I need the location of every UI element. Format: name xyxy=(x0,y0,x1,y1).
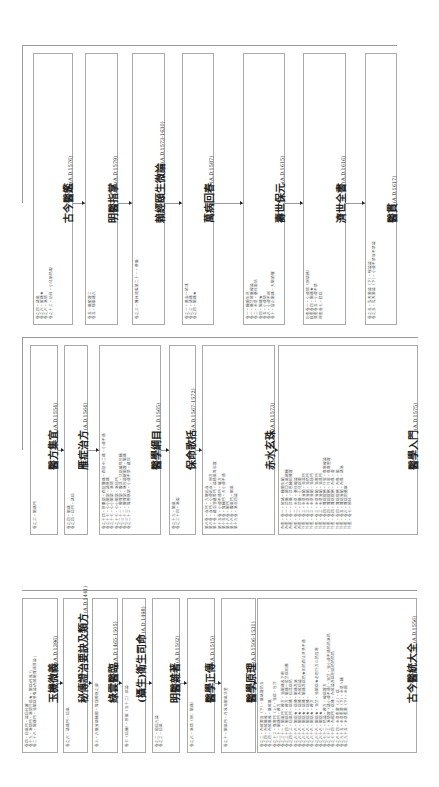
arrowhead-icon xyxy=(61,448,64,452)
book-entry: 卷之二十三・腎膀胱部・小便不禁・遺尿 xyxy=(127,457,131,529)
book-date: (A.D.1573) xyxy=(269,402,275,429)
book-title: 明醫雜著(A.D.1502) xyxy=(167,636,182,703)
book-entry: 卷之三・疝氣 xyxy=(159,723,163,747)
book-entry: 卷二・本草・藥性歌括 xyxy=(254,279,258,319)
book-title: 醫學原理(A.D.1506-1531) xyxy=(243,622,258,704)
book-title-text: 醫貫 xyxy=(387,203,398,223)
book-entry: 卷之四・腸痛★ xyxy=(193,291,197,319)
book-entry: 卷之十七・心小腸部・淋閉 xyxy=(110,481,114,529)
book-entry: 卷之六・諸痛門・疝氣 xyxy=(66,707,70,747)
arrowhead-icon xyxy=(218,681,221,685)
book-date: (A.D.1565) xyxy=(155,402,161,429)
arrowhead-icon xyxy=(184,681,187,685)
arrowhead-icon xyxy=(199,448,202,452)
book-title: 綠雲醫臨(A.D.1465-1505) xyxy=(105,622,120,704)
book-title-text: 古今醫統大全 xyxy=(407,643,418,703)
book-entry: 內集・卷一・診脈・診色臟相機證 xyxy=(289,469,293,529)
book-entry: 卷之五・先天要論（下）・小便不禁並不禁論 xyxy=(372,241,376,319)
book-entry: 卷二十八・陽痛門・治腸病參有論(內經腸胃補質論) xyxy=(33,656,37,747)
book-date: (A.D.1465-1505) xyxy=(112,622,118,664)
book-title: 醫貫(A.D.1617) xyxy=(384,175,399,222)
arrowhead-icon xyxy=(82,201,85,205)
arrowhead-icon xyxy=(254,681,257,685)
book-title-text: (攝生)衛生司命 xyxy=(136,634,147,703)
book-title: 古今醫統大全(A.D.1556) xyxy=(404,616,419,703)
book-date: (A.D.1616) xyxy=(340,155,346,182)
book-entry: 卷之十・腸氣門・丹溪治腸氣活套 xyxy=(224,687,228,747)
book-title-text: 醫學入門 xyxy=(408,430,419,470)
arrowhead-icon xyxy=(179,201,182,205)
arrowhead-icon xyxy=(166,448,169,452)
book-date: (A.D.1506-1531) xyxy=(250,622,256,664)
book-date: (A.D.1617) xyxy=(391,175,397,202)
book-title: 萬病回春(A.D.1587) xyxy=(201,155,216,222)
book-entry: 卷之四十三・疝氣門・病機・疝滿病熱 xyxy=(289,679,293,747)
book-entry: 卷之九十五・本草集要（下）・本國 xyxy=(344,685,348,747)
middle-row-left-line xyxy=(22,337,23,450)
book-entry: 卷之三・腸痛門 xyxy=(33,501,37,529)
book-title: 壽世保元(A.D.1615) xyxy=(272,155,287,222)
book-entry: 外集・卷七・婦科 xyxy=(348,497,352,529)
book-entry: 卷五・喘脹痛六 xyxy=(92,291,96,319)
book-entry: 巽集卷五・小便不禁 xyxy=(314,283,318,319)
book-title: 雁症治方(A.D.1564) xyxy=(75,402,90,469)
arrowhead-icon xyxy=(60,681,63,685)
book-date: (A.D.1573-1630) xyxy=(159,121,165,163)
book-date: (A.D.1396) xyxy=(52,636,58,663)
book-entry: 卷上・六脈分屬臟腑・腎與膀胱之屬 xyxy=(95,683,99,747)
book-date: (A.D.1502) xyxy=(174,636,180,663)
book-title: 醫學正傳(A.D.1515) xyxy=(202,636,217,703)
arrowhead-icon xyxy=(362,201,365,205)
book-date: (A.D.1515) xyxy=(209,636,215,663)
book-date: (A.D.1554) xyxy=(52,402,58,429)
book-title: (攝生)衛生司命(A.D.1498) xyxy=(133,607,148,704)
book-entry: 卷之六・淋閉（附：腸痛） xyxy=(190,699,194,747)
book-title: 玉機微義(A.D.1396) xyxy=(45,636,60,703)
book-title-text: 秘傳證治要訣及類方 xyxy=(78,613,89,703)
book-entry: 卷七（疝偏）・肝脹（五十二）病論 xyxy=(125,685,129,747)
book-date: (A.D.1564) xyxy=(82,402,88,429)
book-title-text: 賴經頤生微論 xyxy=(155,163,166,223)
top-row-left-line xyxy=(22,45,23,203)
middle-row-connector-line xyxy=(22,337,418,338)
book-title: 濟世全書(A.D.1616) xyxy=(333,155,348,222)
arrowhead-icon xyxy=(240,201,243,205)
book-entry: 卷之六十八・腸病★・療方 xyxy=(310,699,314,747)
arrowhead-icon xyxy=(149,681,152,685)
arrowhead-icon xyxy=(119,681,122,685)
top-row-connector-line xyxy=(22,45,397,46)
arrowhead-icon xyxy=(96,448,99,452)
flow-arrow xyxy=(214,203,243,204)
book-title: 明醫指掌(A.D.1579) xyxy=(105,155,120,222)
book-title: 秘傳證治要訣及類方(A.D.1441) xyxy=(75,586,90,703)
book-title: 醫學入門(A.D.1575) xyxy=(405,402,420,469)
arrowhead-icon xyxy=(89,681,92,685)
book-date: (A.D.1576) xyxy=(67,155,73,182)
book-entry: 坤集卷七・殿症 xyxy=(319,291,323,319)
book-date: (A.D.1441) xyxy=(82,586,88,613)
book-date: (A.D.1498) xyxy=(140,607,146,634)
book-entry: 卷之三・醫林滄鑑第二十・・華脈 xyxy=(135,259,139,319)
book-entry: 卷十・當止腸痛・大腸頭癰 xyxy=(271,271,275,319)
book-title: 賴經頤生微論(A.D.1573-1630) xyxy=(152,121,167,223)
book-entry: 卷之七十四・內國門・病機・內經論為病則病熱熱熱熱 xyxy=(331,651,335,747)
arrowhead-icon xyxy=(275,448,278,452)
book-entry: 外集・卷四・雜病提綱・內傷・虛 xyxy=(331,469,335,529)
book-entry: 卷之十三・幼科・小兒胎熱眼 xyxy=(49,267,53,319)
book-entry: 第十卷・遺溺溲遺等門・論精氣等溺證 xyxy=(213,461,217,529)
book-entry: 第十九卷・淋溺四論 xyxy=(234,493,238,529)
book-title: 醫方集宜(A.D.1554) xyxy=(45,402,60,469)
book-entry: 卷之三十四・淋濁 xyxy=(176,497,180,529)
book-date: (A.D.1575) xyxy=(412,402,418,429)
book-title: 保命歌括(A.D.1567-1572) xyxy=(183,388,198,470)
book-date: (A.D.1587) xyxy=(208,155,214,182)
book-entry: 卷之八・淋閉 xyxy=(44,295,48,319)
book-date: (A.D.1615) xyxy=(279,155,285,182)
book-date: (A.D.1579) xyxy=(112,155,118,182)
book-title: 古今醫鑑(A.D.1576) xyxy=(60,155,75,222)
book-entry: 外集・卷三・本草分類・治燥門 xyxy=(310,473,314,529)
arrowhead-icon xyxy=(129,201,132,205)
book-date: (A.D.1556) xyxy=(411,616,417,643)
book-title: 醫學綱目(A.D.1565) xyxy=(148,402,163,469)
book-entry: 卷之四・疝門・諸疝 xyxy=(71,493,75,529)
